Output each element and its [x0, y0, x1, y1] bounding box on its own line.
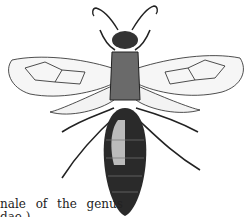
left-antenna: [93, 8, 118, 30]
wasp-illustration: [0, 0, 250, 217]
right-forewing: [138, 56, 243, 96]
head: [112, 31, 138, 49]
right-antenna: [132, 6, 157, 30]
figure-caption-line2: dae.): [0, 211, 30, 217]
thorax: [110, 52, 140, 100]
left-forewing: [9, 57, 112, 96]
